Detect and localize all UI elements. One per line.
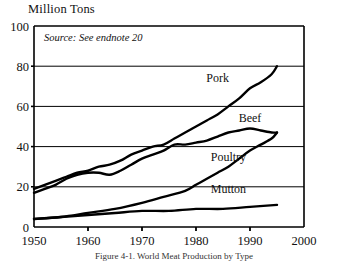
series-lines-group	[34, 66, 277, 219]
series-label-poultry: Poultry	[211, 150, 246, 164]
series-line-pork	[34, 66, 277, 189]
figure-caption: Figure 4-1. World Meat Production by Typ…	[95, 251, 253, 261]
source-annotation: Source: See endnote 20	[44, 32, 143, 43]
series-label-pork: Pork	[206, 71, 229, 85]
y-tick-label-0: 0	[23, 221, 29, 235]
chart-figure: Million Tons 020406080100 19501960197019…	[0, 0, 349, 262]
series-label-mutton: Mutton	[211, 182, 246, 196]
y-tick-label-80: 80	[17, 60, 30, 74]
y-tick-labels-group: 020406080100	[10, 20, 29, 235]
gridlines-group	[34, 26, 304, 227]
x-tick-label-2000: 2000	[292, 234, 317, 248]
series-line-mutton	[34, 205, 277, 219]
y-tick-label-100: 100	[10, 20, 29, 34]
series-labels-group: PorkBeefPoultryMutton	[206, 71, 261, 196]
x-tick-label-1960: 1960	[76, 234, 101, 248]
series-label-beef: Beef	[239, 111, 262, 125]
x-tick-labels-group: 195019601970198019902000	[22, 234, 317, 248]
y-tick-label-40: 40	[17, 140, 30, 154]
x-tick-label-1990: 1990	[238, 234, 263, 248]
x-tick-label-1970: 1970	[130, 234, 155, 248]
x-tick-label-1950: 1950	[22, 234, 47, 248]
x-tick-label-1980: 1980	[184, 234, 209, 248]
line-chart-canvas: 020406080100 195019601970198019902000 Po…	[0, 0, 349, 262]
y-tick-label-20: 20	[17, 180, 30, 194]
y-tick-label-60: 60	[17, 100, 30, 114]
